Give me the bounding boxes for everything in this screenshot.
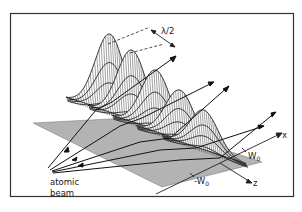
z-axis-label: z: [253, 179, 257, 188]
x-axis-label: x: [282, 131, 287, 140]
w0-negative-text: -W: [194, 176, 205, 186]
w0-positive-subscript: 0: [256, 155, 260, 162]
atomic-beam-label-line1: atomic: [50, 178, 79, 187]
standing-wave-figure: λ/2 atomic beam x z W0 -W0: [0, 0, 302, 212]
atomic-beam-label-line2: beam: [50, 189, 74, 198]
w0-negative-subscript: 0: [205, 180, 209, 187]
wavelength-label: λ/2: [161, 27, 174, 36]
w0-positive-label: W0: [248, 152, 260, 163]
w0-negative-label: -W0: [194, 177, 209, 188]
